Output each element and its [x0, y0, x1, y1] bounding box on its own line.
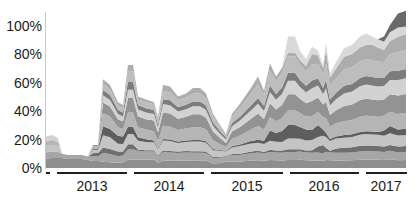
y-axis-ticks: 0% 20% 40% 60% 80% 100%	[6, 18, 42, 176]
year-bracket-2013	[57, 172, 127, 174]
year-label-2014: 2014	[153, 178, 184, 194]
year-label-2015: 2015	[231, 178, 262, 194]
year-bracket-2016	[290, 172, 359, 174]
year-bracket-2014	[134, 172, 204, 174]
year-brackets	[46, 172, 407, 174]
y-tick-label-0: 0%	[22, 160, 42, 176]
y-tick-label-60: 60%	[14, 75, 42, 91]
year-bracket-pre	[46, 172, 50, 174]
year-bracket-2015	[211, 172, 283, 174]
year-labels: 2013 2014 2015 2016 2017	[76, 178, 401, 194]
y-tick-label-100: 100%	[6, 18, 42, 34]
stacked-area-chart: 0% 20% 40% 60% 80% 100% 2013 2014 2015 2…	[0, 0, 419, 204]
y-tick-label-40: 40%	[14, 103, 42, 119]
year-label-2016: 2016	[308, 178, 339, 194]
year-label-2013: 2013	[76, 178, 107, 194]
stacked-areas	[46, 11, 406, 168]
year-bracket-2017	[366, 172, 407, 174]
y-tick-label-20: 20%	[14, 132, 42, 148]
year-label-2017: 2017	[370, 178, 401, 194]
y-tick-label-80: 80%	[14, 46, 42, 62]
